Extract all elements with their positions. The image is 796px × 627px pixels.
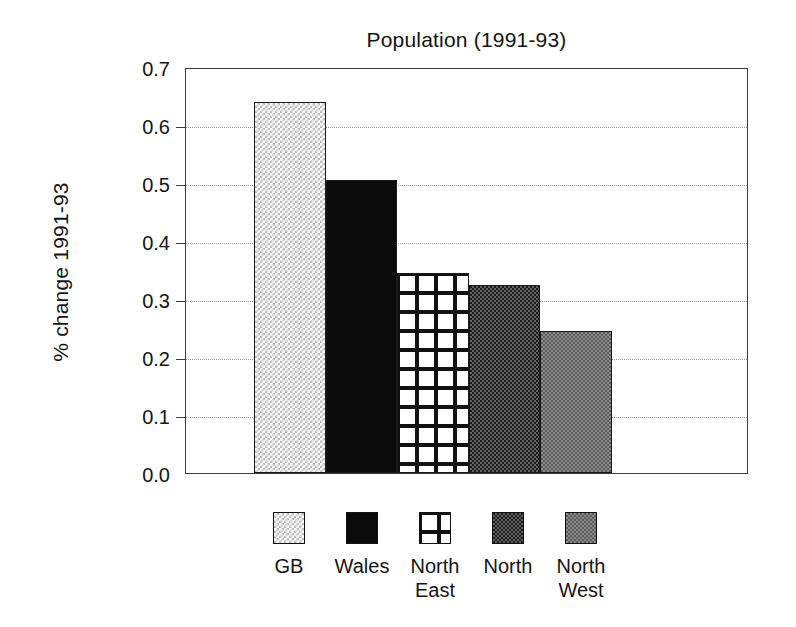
legend-swatch-icon: [492, 512, 524, 544]
legend-swatch-icon: [565, 512, 597, 544]
chart-title: Population (1991-93): [185, 28, 748, 52]
y-axis-tick-label: 0.0: [142, 464, 170, 487]
y-axis-tick: [176, 417, 186, 418]
y-axis-tick-label: 0.6: [142, 116, 170, 139]
y-axis-title: % change 1991-93: [49, 182, 72, 362]
legend-label-line2: East: [399, 578, 471, 602]
y-axis-tick-label: 0.4: [142, 232, 170, 255]
y-axis-tick-label: 0.1: [142, 406, 170, 429]
bar-north: [469, 285, 541, 474]
legend-item-north-west[interactable]: NorthWest: [545, 512, 617, 602]
legend-swatch-icon: [346, 512, 378, 544]
y-axis-tick: [176, 185, 186, 186]
bar-north-west: [540, 331, 612, 473]
legend-label: NorthEast: [399, 554, 471, 602]
y-axis-tick-label: 0.2: [142, 348, 170, 371]
legend-item-north-east[interactable]: NorthEast: [399, 512, 471, 602]
chart-legend: GBWalesNorthEastNorthNorthWest: [253, 512, 619, 612]
legend-label: North: [472, 554, 544, 578]
population-bar-chart-figure: Population (1991-93) % change 1991-93 0.…: [0, 0, 796, 627]
legend-item-wales[interactable]: Wales: [326, 512, 398, 578]
y-axis-tick: [176, 301, 186, 302]
y-axis-tick: [176, 243, 186, 244]
y-axis-tick: [176, 359, 186, 360]
bar-gb: [254, 102, 326, 473]
legend-label: GB: [253, 554, 325, 578]
legend-label: Wales: [326, 554, 398, 578]
y-axis-title-wrapper: % change 1991-93: [49, 122, 79, 422]
legend-swatch-icon: [419, 512, 451, 544]
y-axis-tick-label: 0.3: [142, 290, 170, 313]
legend-label-line2: West: [545, 578, 617, 602]
legend-item-north[interactable]: North: [472, 512, 544, 578]
legend-swatch-icon: [273, 512, 305, 544]
legend-item-gb[interactable]: GB: [253, 512, 325, 578]
y-axis-tick: [176, 127, 186, 128]
y-axis-tick-label: 0.7: [142, 58, 170, 81]
bar-north-east: [397, 273, 469, 473]
bar-wales: [326, 180, 398, 473]
legend-label: NorthWest: [545, 554, 617, 602]
plot-area: 0.70.60.50.40.30.20.10.0: [185, 68, 748, 474]
y-axis-tick-label: 0.5: [142, 174, 170, 197]
